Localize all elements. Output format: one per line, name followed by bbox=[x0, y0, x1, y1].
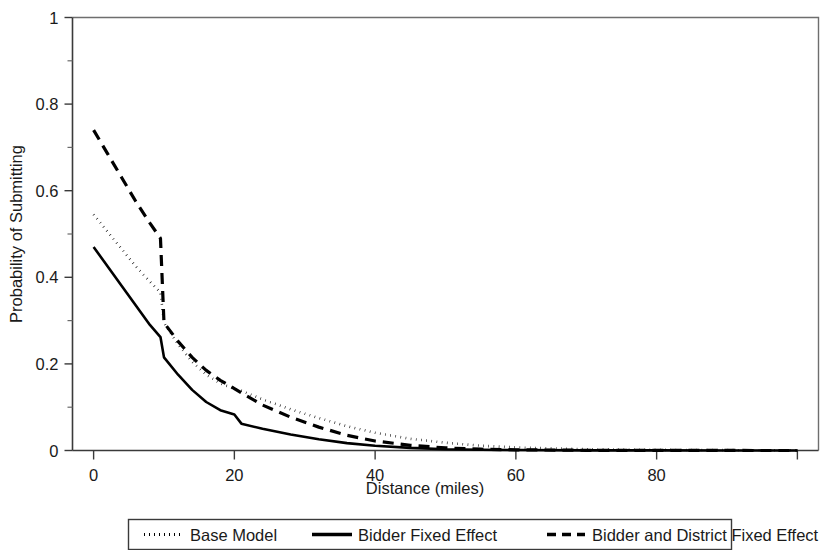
series-line-bidder-and-district-fixed-effect bbox=[94, 130, 798, 450]
y-tick-label: 0.4 bbox=[36, 268, 59, 286]
x-tick-label: 60 bbox=[507, 466, 525, 484]
chart-figure: 00.20.40.60.81 020406080 Distance (miles… bbox=[0, 0, 832, 550]
x-tick-label: 80 bbox=[647, 466, 665, 484]
plot-frame-border bbox=[73, 18, 819, 451]
x-tick-label: 20 bbox=[225, 466, 243, 484]
legend-label: Base Model bbox=[190, 526, 277, 544]
legend-label: Bidder Fixed Effect bbox=[358, 526, 498, 544]
x-tick-label: 0 bbox=[89, 466, 98, 484]
chart-legend: Base ModelBidder Fixed EffectBidder and … bbox=[129, 520, 819, 550]
y-tick-label: 0.2 bbox=[36, 355, 59, 373]
series-line-bidder-fixed-effect bbox=[94, 247, 798, 451]
y-tick-label: 0.8 bbox=[36, 95, 59, 113]
legend-label: Bidder and District Fixed Effect bbox=[592, 526, 819, 544]
y-axis-ticks bbox=[65, 18, 73, 451]
x-axis-title: Distance (miles) bbox=[366, 479, 484, 497]
y-axis-tick-labels: 00.20.40.60.81 bbox=[36, 9, 59, 460]
series-lines bbox=[94, 130, 798, 450]
probability-vs-distance-chart: 00.20.40.60.81 020406080 Distance (miles… bbox=[0, 0, 832, 550]
series-line-base-model bbox=[94, 215, 798, 451]
y-axis-title: Probability of Submitting bbox=[7, 145, 25, 323]
y-tick-label: 1 bbox=[49, 9, 58, 27]
y-tick-label: 0 bbox=[49, 442, 58, 460]
y-tick-label: 0.6 bbox=[36, 182, 59, 200]
plot-frame bbox=[73, 18, 819, 451]
